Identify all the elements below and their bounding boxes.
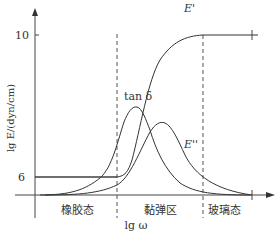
region-glass: 玻璃态 (208, 203, 241, 217)
curve-E-storage (35, 35, 258, 177)
label-tan-delta: tan δ (124, 90, 153, 103)
region-visco: 黏弹区 (144, 203, 177, 217)
region-rubber: 橡胶态 (61, 203, 94, 217)
label-E-loss: E'' (183, 138, 198, 151)
y-axis-label: lg E/(dyn/cm) (5, 84, 16, 152)
label-E-storage: E' (183, 2, 195, 15)
y-axis-arrow-icon (32, 8, 38, 16)
ytick-label-10: 10 (15, 29, 29, 42)
curve-E-loss (45, 122, 252, 195)
curve-tan-delta (40, 107, 250, 195)
x-axis-arrow-icon (266, 192, 275, 198)
viscoelastic-diagram: 10 6 E' tan δ E'' 橡胶态 黏弹区 玻璃态 lg ω lg E/… (0, 0, 280, 235)
ytick-label-6: 6 (18, 171, 25, 184)
x-axis-label: lg ω (124, 219, 147, 232)
